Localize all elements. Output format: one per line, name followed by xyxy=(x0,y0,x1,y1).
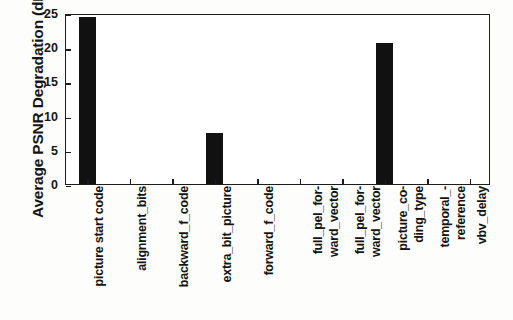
x-tick-mark xyxy=(130,179,131,184)
y-tick-mark xyxy=(66,152,71,153)
chart-figure: Average PSNR Degradation (dB) 0510152025… xyxy=(0,0,513,320)
x-tick-mark xyxy=(385,179,386,184)
y-tick-mark xyxy=(66,49,71,50)
y-tick-label: 15 xyxy=(30,75,58,89)
y-tick-mark xyxy=(66,118,71,119)
x-tick-label: full_pel_for- ward_vector xyxy=(353,186,387,316)
x-tick-label: temporal_- reference xyxy=(438,186,472,316)
x-tick-label: backward_f_code xyxy=(177,186,211,316)
x-tick-mark xyxy=(470,179,471,184)
x-tick-label: picture_co- ding_type xyxy=(396,186,430,316)
y-tick-label: 5 xyxy=(30,144,58,158)
y-axis-tick-labels: 0510152025 xyxy=(30,0,58,200)
x-tick-mark xyxy=(172,179,173,184)
x-tick-label: picture start code xyxy=(92,186,126,316)
y-tick-label: 25 xyxy=(30,7,58,21)
bar xyxy=(206,133,223,184)
x-axis-tick-labels: picture start codealignment_bitsbackward… xyxy=(65,186,490,320)
x-tick-mark xyxy=(215,179,216,184)
x-tick-label: forward_f_code xyxy=(262,186,296,316)
x-tick-label: alignment_bits xyxy=(135,186,169,316)
y-tick-label: 20 xyxy=(30,41,58,55)
x-tick-label: vbv_delay xyxy=(475,186,509,316)
x-tick-mark xyxy=(300,179,301,184)
x-tick-mark xyxy=(427,179,428,184)
x-tick-mark xyxy=(257,179,258,184)
y-tick-mark xyxy=(66,83,71,84)
plot-area xyxy=(65,14,490,185)
bar xyxy=(376,43,393,184)
x-tick-mark xyxy=(87,179,88,184)
y-tick-label: 10 xyxy=(30,110,58,124)
y-tick-label: 0 xyxy=(30,178,58,192)
x-tick-label: full_pel_for- ward_vector xyxy=(311,186,345,316)
x-tick-label: extra_bit_picture xyxy=(220,186,254,316)
y-tick-mark xyxy=(66,15,71,16)
bar xyxy=(79,17,96,184)
x-tick-mark xyxy=(342,179,343,184)
